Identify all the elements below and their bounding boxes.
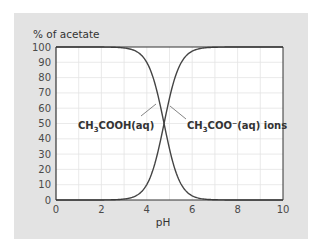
- chart-canvas: 0102030405060708090100 0246810 % of acet…: [0, 0, 321, 249]
- x-tick-label: 4: [144, 204, 150, 215]
- x-tick-label: 0: [53, 204, 59, 215]
- y-tick-label: 70: [38, 87, 51, 98]
- y-tick-label: 40: [38, 133, 51, 144]
- x-tick-label: 8: [234, 204, 240, 215]
- y-tick-label: 90: [38, 57, 51, 68]
- y-tick-label: 100: [32, 42, 51, 53]
- x-tick-label: 10: [277, 204, 290, 215]
- y-tick-label: 0: [45, 195, 51, 206]
- x-tick-labels: 0246810: [53, 204, 290, 215]
- x-axis-label: pH: [156, 216, 171, 228]
- y-tick-label: 50: [38, 118, 51, 129]
- y-tick-label: 20: [38, 164, 51, 175]
- x-tick-label: 2: [98, 204, 104, 215]
- y-tick-label: 30: [38, 149, 51, 160]
- y-axis-label: % of acetate: [33, 28, 100, 40]
- y-tick-label: 10: [38, 179, 51, 190]
- y-tick-label: 80: [38, 72, 51, 83]
- x-tick-label: 6: [189, 204, 195, 215]
- y-tick-label: 60: [38, 103, 51, 114]
- y-tick-labels: 0102030405060708090100: [32, 42, 51, 206]
